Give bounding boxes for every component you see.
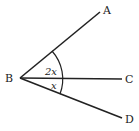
label-a: A	[102, 4, 112, 17]
ray-bc	[20, 78, 122, 79]
label-c: C	[125, 73, 133, 86]
angle-label-x: x	[51, 80, 57, 91]
label-b: B	[5, 72, 13, 85]
angle-diagram: B A C D 2x x	[0, 0, 139, 131]
label-d: D	[125, 113, 134, 126]
angle-label-2x: 2x	[44, 66, 57, 77]
ray-bd	[20, 78, 122, 118]
ray-ba	[20, 12, 100, 78]
